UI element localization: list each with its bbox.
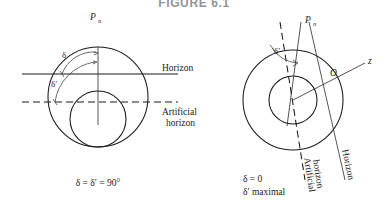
right-horizon-line	[309, 22, 345, 180]
right-artificial-horizon-line	[280, 22, 305, 180]
figure-svg: P n δ δ′ Horizon Artificial horizon δ = …	[0, 0, 388, 209]
left-delta-prime-arc	[55, 62, 95, 102]
left-pole-subscript: n	[98, 17, 102, 24]
left-horizon-label: Horizon	[162, 63, 193, 73]
left-artificial-horizon-label-2: horizon	[166, 118, 195, 128]
right-diagram-group: P n δ′ O z Artificial horizon Horizon δ …	[243, 15, 372, 197]
left-delta-prime-label: δ′	[51, 79, 57, 89]
right-caption-line2: δ′ maximal	[243, 187, 286, 197]
left-delta-label: δ	[62, 50, 66, 60]
right-zenith-radius	[293, 63, 365, 100]
left-diagram-group: P n δ δ′ Horizon Artificial horizon δ = …	[22, 12, 197, 188]
right-pole-subscript: n	[313, 20, 317, 27]
right-zenith-label: z	[367, 56, 372, 66]
left-artificial-horizon-label-1: Artificial	[162, 107, 197, 117]
right-origin-label: O	[330, 68, 337, 78]
right-caption-line1: δ = 0	[243, 174, 263, 184]
right-horizon-label: Horizon	[340, 148, 356, 181]
left-pole-label: P	[89, 12, 96, 22]
right-pole-label: P	[304, 15, 311, 25]
right-delta-prime-label: δ′	[274, 46, 280, 56]
left-caption: δ = δ′ = 90°	[76, 178, 121, 188]
figure-root: FIGURE 6.1 P n	[0, 0, 388, 209]
left-delta-arrowhead	[94, 52, 98, 55]
